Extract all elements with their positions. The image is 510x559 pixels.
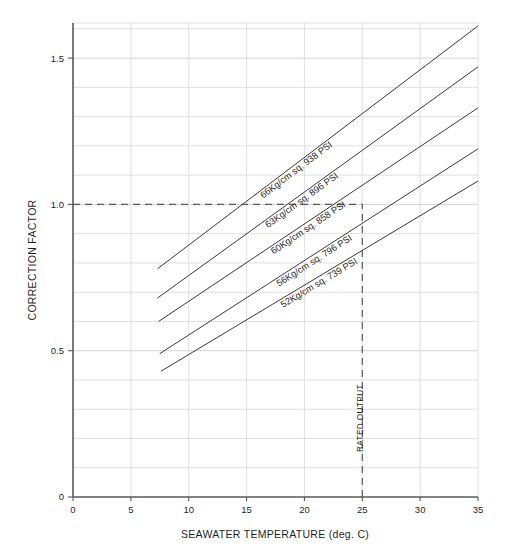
- correction-factor-chart: 05101520253035 00.51.01.5 66Kg/cm sq. 93…: [0, 0, 510, 559]
- chart-background: [0, 0, 510, 559]
- y-tick-label: 1.5: [51, 53, 64, 64]
- x-tick-label: 5: [128, 504, 133, 515]
- y-tick-label: 0.5: [51, 345, 64, 356]
- chart-canvas: 05101520253035 00.51.01.5 66Kg/cm sq. 93…: [0, 0, 510, 559]
- y-axis-title: CORRECTION FACTOR: [26, 199, 38, 320]
- x-tick-label: 25: [357, 504, 368, 515]
- x-axis-title: SEAWATER TEMPERATURE (deg. C): [181, 528, 369, 540]
- x-tick-label: 15: [241, 504, 252, 515]
- rated-output-label: RATED OUTPUT: [356, 384, 365, 452]
- y-tick-label: 1.0: [51, 199, 64, 210]
- y-tick-label: 0: [59, 491, 64, 502]
- x-tick-label: 20: [299, 504, 310, 515]
- x-tick-label: 10: [183, 504, 194, 515]
- x-tick-label: 35: [473, 504, 484, 515]
- x-tick-label: 0: [70, 504, 75, 515]
- x-tick-label: 30: [415, 504, 426, 515]
